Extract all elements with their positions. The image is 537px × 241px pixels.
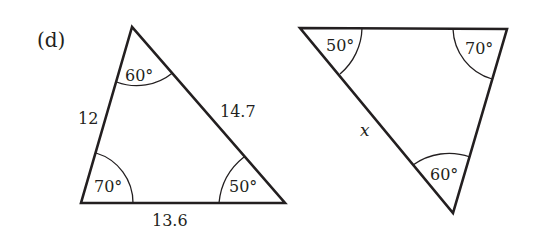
side-label-12: 12 [78,109,98,128]
angle-label-60: 60° [125,66,153,85]
part-label: (d) [37,28,65,52]
left-triangle: 60° 70° 50° 12 14.7 13.6 [78,27,285,230]
similar-triangles-diagram: (d) 60° 70° 50° 12 14.7 13.6 50° 70° 60°… [0,0,537,241]
side-label-x: x [360,120,370,140]
side-label-13-6: 13.6 [152,211,188,230]
right-triangle: 50° 70° 60° x [300,28,507,213]
angle-label-50: 50° [229,177,257,196]
angle-label-70: 70° [94,177,122,196]
angle-label-50: 50° [326,36,354,55]
side-label-14-7: 14.7 [220,102,256,121]
angle-label-70: 70° [465,39,493,58]
angle-label-60: 60° [430,165,458,184]
right-bottom-angle-arc [413,153,470,165]
